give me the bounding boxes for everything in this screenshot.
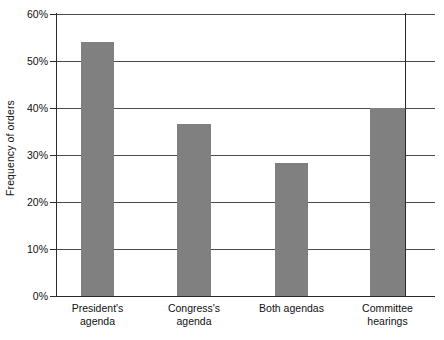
x-axis-tick-label-line: President's [72,302,124,314]
bar [275,163,308,296]
x-axis-tick-label-line: agenda [134,315,254,328]
axis-baseline [56,296,435,297]
y-axis-tick-label: 0% [4,291,48,302]
x-axis-tick-label-line: Committee [362,302,413,314]
y-axis-tick-label: 60% [4,9,48,20]
bar [81,42,114,296]
y-axis-tick-label: 40% [4,103,48,114]
y-axis-title-text: Frequency of orders [4,100,16,196]
plot-area [56,14,435,296]
x-axis-tick-label: Committeehearings [328,302,444,327]
y-axis-tick-label: 20% [4,197,48,208]
y-axis-tick-label: 10% [4,244,48,255]
x-axis-tick-label-line: Both agendas [259,302,324,314]
bar [370,108,405,296]
x-axis-tick-label-line: hearings [328,315,444,328]
y-axis-tick-label: 50% [4,56,48,67]
bar-chart: Frequency of orders 0%10%20%30%40%50%60%… [0,0,444,340]
x-axis-tick-label-line: Congress's [168,302,220,314]
bar [177,124,211,296]
y-axis-tick-label: 30% [4,150,48,161]
